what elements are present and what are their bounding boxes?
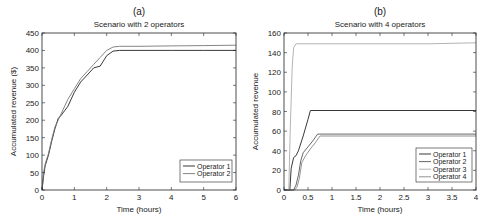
y-tick-label: 100: [268, 88, 282, 97]
x-tick-label: 6: [234, 193, 239, 202]
x-tick-label: 3: [426, 193, 431, 202]
x-tick-label: 0.5: [302, 193, 314, 202]
x-tick-label: 5: [201, 193, 206, 202]
legend-entry: Operator 4: [433, 173, 467, 181]
x-axis-label: Time (hours): [357, 205, 402, 214]
y-tick-label: 40: [272, 147, 281, 156]
y-tick-label: 200: [26, 116, 40, 125]
y-tick-label: 350: [26, 64, 40, 73]
y-tick-label: 20: [272, 166, 281, 175]
x-tick-label: 1: [330, 193, 335, 202]
y-tick-label: 50: [30, 169, 39, 178]
legend: Operator 1Operator 2: [180, 160, 232, 182]
chart-title: Scenario with 4 operators: [335, 20, 426, 29]
x-tick-label: 2: [104, 193, 109, 202]
x-tick-label: 1.5: [350, 193, 362, 202]
x-tick-label: 0: [40, 193, 45, 202]
y-tick-label: 120: [268, 68, 282, 77]
panel-label: (a): [133, 6, 145, 17]
x-tick-label: 1: [72, 193, 77, 202]
x-tick-label: 2: [378, 193, 383, 202]
x-tick-label: 3: [137, 193, 142, 202]
y-tick-label: 450: [26, 29, 40, 38]
x-tick-label: 4: [169, 193, 174, 202]
y-tick-label: 160: [268, 29, 282, 38]
y-tick-label: 140: [268, 49, 282, 58]
y-tick-label: 250: [26, 99, 40, 108]
panel-label: (b): [374, 6, 386, 17]
figure: (a)Scenario with 2 operators012345605010…: [0, 0, 491, 219]
y-tick-label: 80: [272, 108, 281, 117]
y-tick-label: 0: [277, 186, 282, 195]
y-tick-label: 400: [26, 46, 40, 55]
y-axis-label: Accumulated revenue: [251, 72, 260, 150]
y-tick-label: 60: [272, 127, 281, 136]
x-tick-label: 4: [474, 193, 479, 202]
x-tick-label: 3.5: [446, 193, 458, 202]
legend-entry: Operator 2: [197, 170, 231, 178]
y-tick-label: 300: [26, 81, 40, 90]
x-tick-label: 2.5: [398, 193, 410, 202]
chart-panel-a: (a)Scenario with 2 operators012345605010…: [9, 6, 239, 214]
y-tick-label: 0: [35, 186, 40, 195]
y-axis-label: Accumulated revenue ($): [9, 66, 18, 156]
chart-panel-b: (b)Scenario with 4 operators00.511.522.5…: [251, 6, 479, 214]
x-axis-label: Time (hours): [116, 205, 161, 214]
legend: Operator 1Operator 2Operator 3Operator 4: [416, 148, 472, 182]
y-tick-label: 150: [26, 134, 40, 143]
y-tick-label: 100: [26, 151, 40, 160]
x-tick-label: 0: [282, 193, 287, 202]
chart-title: Scenario with 2 operators: [94, 20, 185, 29]
